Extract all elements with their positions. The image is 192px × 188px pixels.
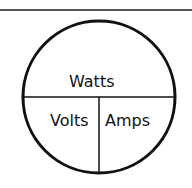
- watts-label: Watts: [69, 74, 114, 90]
- amps-label: Amps: [105, 113, 150, 129]
- power-circle-diagram: [0, 0, 192, 188]
- volts-label: Volts: [50, 113, 89, 129]
